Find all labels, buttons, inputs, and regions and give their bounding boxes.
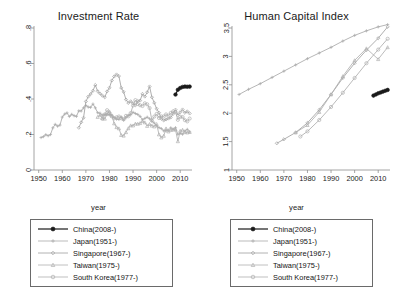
legend-key-circle-filled-icon [236, 223, 270, 235]
investment-rate-plot: 0.2.4.6.81950196019701980199020002010 [0, 22, 197, 202]
panel-title: Human Capital Index [198, 10, 395, 22]
legend: China(2008-)Japan(1951-)Singapore(1967-)… [30, 219, 173, 287]
legend-label: Taiwan(1975-) [70, 261, 120, 270]
svg-text:3.5: 3.5 [222, 23, 231, 33]
legend-item[interactable]: South Korea(1977-) [31, 271, 172, 283]
legend-key-diamond-icon [36, 247, 70, 259]
legend-key-circle-open-icon [236, 271, 270, 283]
legend-item[interactable]: Singapore(1967-) [31, 247, 172, 259]
panel-title: Investment Rate [0, 10, 197, 22]
legend-label: South Korea(1977-) [270, 273, 338, 282]
legend-key-triangle-icon [36, 259, 70, 271]
legend-key-plus-icon [36, 235, 70, 247]
legend-label: Taiwan(1975-) [270, 261, 320, 270]
legend-item[interactable]: China(2008-) [231, 223, 372, 235]
legend-label: Japan(1951-) [270, 237, 317, 246]
x-axis-label: year [0, 203, 197, 212]
panel-human-capital-index: Human Capital Index 11.522.533.519501960… [198, 0, 395, 292]
legend-key-circle-filled-icon [36, 223, 70, 235]
legend-item[interactable]: South Korea(1977-) [231, 271, 372, 283]
svg-text:1970: 1970 [78, 174, 94, 183]
legend-key-circle-open-icon [36, 271, 70, 283]
svg-text:1980: 1980 [299, 174, 315, 183]
svg-text:2000: 2000 [148, 174, 164, 183]
legend-label: Singapore(1967-) [270, 249, 331, 258]
svg-text:0: 0 [24, 168, 33, 172]
legend-label: South Korea(1977-) [70, 273, 138, 282]
legend-key-plus-icon [236, 235, 270, 247]
legend-label: China(2008-) [270, 225, 316, 234]
svg-text:.6: .6 [24, 60, 33, 66]
legend-item[interactable]: Taiwan(1975-) [231, 259, 372, 271]
x-axis-label: year [198, 203, 395, 212]
human-capital-index-plot: 11.522.533.51950196019701980199020002010 [198, 22, 395, 202]
svg-text:.2: .2 [24, 131, 33, 137]
svg-text:1960: 1960 [54, 174, 70, 183]
svg-text:1960: 1960 [252, 174, 268, 183]
svg-text:2000: 2000 [346, 174, 362, 183]
legend-label: Japan(1951-) [70, 237, 117, 246]
panel-investment-rate: Investment Rate 0.2.4.6.8195019601970198… [0, 0, 197, 292]
legend-key-triangle-icon [236, 259, 270, 271]
legend-item[interactable]: Japan(1951-) [231, 235, 372, 247]
svg-text:1990: 1990 [125, 174, 141, 183]
svg-text:1980: 1980 [101, 174, 117, 183]
legend-label: China(2008-) [70, 225, 116, 234]
legend-item[interactable]: Japan(1951-) [31, 235, 172, 247]
legend-item[interactable]: Taiwan(1975-) [31, 259, 172, 271]
svg-text:2: 2 [222, 111, 231, 115]
legend: China(2008-)Japan(1951-)Singapore(1967-)… [230, 219, 373, 287]
svg-text:.4: .4 [24, 96, 33, 102]
svg-text:.8: .8 [24, 25, 33, 31]
legend-item[interactable]: China(2008-) [31, 223, 172, 235]
svg-text:1950: 1950 [30, 174, 46, 183]
figure-container: Investment Rate 0.2.4.6.8195019601970198… [0, 0, 395, 292]
svg-text:1: 1 [222, 168, 231, 172]
legend-key-diamond-icon [236, 247, 270, 259]
svg-text:1950: 1950 [228, 174, 244, 183]
svg-text:3: 3 [222, 54, 231, 58]
svg-text:1.5: 1.5 [222, 136, 231, 146]
svg-text:1990: 1990 [323, 174, 339, 183]
legend-item[interactable]: Singapore(1967-) [231, 247, 372, 259]
svg-text:1970: 1970 [276, 174, 292, 183]
legend-label: Singapore(1967-) [70, 249, 131, 258]
svg-text:2.5: 2.5 [222, 80, 231, 90]
svg-text:2010: 2010 [172, 174, 188, 183]
svg-text:2010: 2010 [370, 174, 386, 183]
